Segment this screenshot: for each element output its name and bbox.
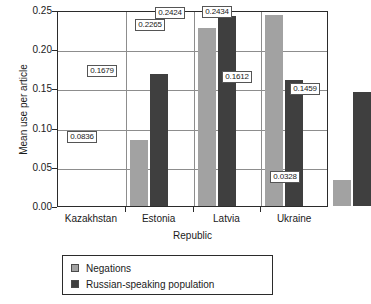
x-axis-title: Republic <box>57 230 328 241</box>
y-axis-tick-label: 0.10 <box>6 124 52 134</box>
category-separator <box>261 12 262 206</box>
x-axis-tick-mark <box>125 207 126 212</box>
bar-value-label: 0.1459 <box>290 83 320 95</box>
y-axis-tick-label: 0.25 <box>6 6 52 16</box>
bar <box>150 74 168 206</box>
bar <box>353 92 371 206</box>
legend-label: Negations <box>86 263 131 274</box>
bar <box>333 180 351 206</box>
y-axis-tick-label: 0.00 <box>6 202 52 212</box>
x-axis-tick-mark <box>193 207 194 212</box>
y-axis-tick-mark <box>52 129 57 130</box>
bar-value-label: 0.2424 <box>155 7 185 19</box>
bar-value-label: 0.2265 <box>135 19 165 31</box>
bar-value-label: 0.2434 <box>202 6 232 18</box>
bar <box>198 28 216 206</box>
y-axis-tick-mark <box>52 207 57 208</box>
y-axis-tick-mark <box>52 89 57 90</box>
bar-value-label: 0.1679 <box>87 65 117 77</box>
legend-swatch-icon <box>71 264 79 272</box>
y-axis-tick-mark <box>52 50 57 51</box>
gridline <box>58 51 327 52</box>
bar <box>285 80 303 206</box>
legend-item: Russian-speaking population <box>71 277 272 291</box>
chart-legend: NegationsRussian-speaking population <box>62 255 273 295</box>
y-axis-tick-mark <box>52 168 57 169</box>
legend-swatch-icon <box>71 280 79 288</box>
y-axis-tick-label: 0.05 <box>6 163 52 173</box>
bar-value-label: 0.0328 <box>270 171 300 183</box>
category-separator <box>126 12 127 206</box>
y-axis-tick-label: 0.15 <box>6 84 52 94</box>
bar-value-label: 0.0836 <box>67 131 97 143</box>
x-axis-category-label: Ukraine <box>244 213 344 224</box>
bar <box>218 16 236 206</box>
bar-value-label: 0.1612 <box>222 71 252 83</box>
legend-label: Russian-speaking population <box>86 279 214 290</box>
y-axis-tick-label: 0.20 <box>6 45 52 55</box>
bar <box>130 140 148 206</box>
legend-item: Negations <box>71 261 272 275</box>
category-separator <box>194 12 195 206</box>
y-axis-tick-mark <box>52 11 57 12</box>
x-axis-tick-mark <box>260 207 261 212</box>
